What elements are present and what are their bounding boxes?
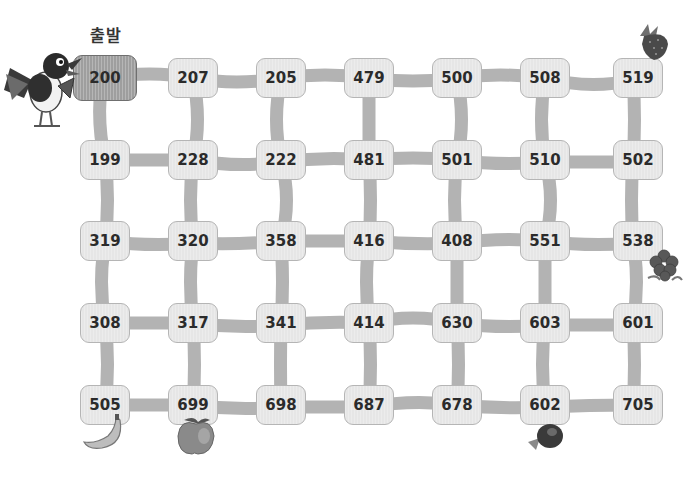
maze-cell[interactable]: 408 <box>432 221 482 261</box>
maze-cell-start[interactable]: 200 <box>73 55 137 101</box>
maze-cell[interactable]: 698 <box>256 385 306 425</box>
plum-icon <box>526 420 566 454</box>
maze-cell[interactable]: 319 <box>80 221 130 261</box>
maze-cell[interactable]: 341 <box>256 303 306 343</box>
maze-cell[interactable]: 500 <box>432 58 482 98</box>
maze-cell[interactable]: 501 <box>432 140 482 180</box>
maze-cell[interactable]: 222 <box>256 140 306 180</box>
maze-cell[interactable]: 603 <box>520 303 570 343</box>
maze-cell[interactable]: 416 <box>344 221 394 261</box>
maze-cell[interactable]: 481 <box>344 140 394 180</box>
banana-icon <box>82 414 126 454</box>
strawberry-icon <box>634 22 672 62</box>
maze-cell[interactable]: 502 <box>613 140 663 180</box>
maze-cell[interactable]: 687 <box>344 385 394 425</box>
maze-cell[interactable]: 601 <box>613 303 663 343</box>
maze-cell[interactable]: 205 <box>256 58 306 98</box>
maze-cell[interactable]: 551 <box>520 221 570 261</box>
maze-cell[interactable]: 519 <box>613 58 663 98</box>
maze-cell[interactable]: 308 <box>80 303 130 343</box>
grapes-icon <box>646 248 684 284</box>
maze-cell[interactable]: 228 <box>168 140 218 180</box>
maze-cell[interactable]: 317 <box>168 303 218 343</box>
magpie-bird-icon <box>2 40 82 130</box>
maze-cell[interactable]: 414 <box>344 303 394 343</box>
maze-cell[interactable]: 207 <box>168 58 218 98</box>
maze-cell[interactable]: 508 <box>520 58 570 98</box>
maze-cell[interactable]: 320 <box>168 221 218 261</box>
maze-cell[interactable]: 358 <box>256 221 306 261</box>
maze-cell[interactable]: 678 <box>432 385 482 425</box>
maze-cell[interactable]: 630 <box>432 303 482 343</box>
maze-cell[interactable]: 479 <box>344 58 394 98</box>
maze-cell[interactable]: 602 <box>520 385 570 425</box>
apple-icon <box>176 416 216 456</box>
maze-cell[interactable]: 510 <box>520 140 570 180</box>
maze-cell[interactable]: 199 <box>80 140 130 180</box>
maze-cell[interactable]: 705 <box>613 385 663 425</box>
